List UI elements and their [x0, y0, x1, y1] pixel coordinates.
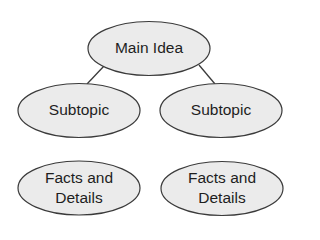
details-right-line2: Details: [188, 188, 256, 208]
connector-main-to-right-subtopic: [199, 65, 215, 84]
subtopic-left-text: Subtopic: [49, 100, 109, 120]
details-left-line1: Facts and: [45, 168, 113, 188]
details-left-line2: Details: [45, 188, 113, 208]
details-right-line1: Facts and: [188, 168, 256, 188]
details-left-label: Facts and Details: [45, 168, 113, 208]
connector-main-to-left-subtopic: [87, 66, 104, 84]
subtopic-left-label: Subtopic: [49, 100, 109, 120]
main-idea-label: Main Idea: [115, 38, 183, 58]
main-idea-text: Main Idea: [115, 38, 183, 58]
details-right-label: Facts and Details: [188, 168, 256, 208]
subtopic-right-label: Subtopic: [191, 100, 251, 120]
subtopic-right-text: Subtopic: [191, 100, 251, 120]
